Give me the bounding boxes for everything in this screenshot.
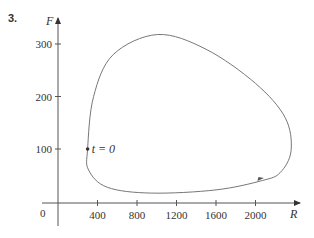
axes [42, 18, 300, 226]
y-tick-label: 200 [36, 91, 53, 103]
problem-number: 3. [8, 12, 17, 24]
x-tick-label: 1200 [166, 209, 189, 221]
x-tick-label: 400 [89, 209, 106, 221]
start-point-dot [86, 147, 90, 151]
phase-plot: 3. 400800120016002000100200300 t = 0 R F… [0, 0, 314, 238]
start-label: t = 0 [92, 142, 115, 156]
origin-label: 0 [40, 207, 46, 219]
x-tick-label: 1600 [205, 209, 228, 221]
x-tick-label: 2000 [245, 209, 268, 221]
annotations: t = 0 [86, 142, 264, 181]
y-tick-label: 100 [36, 143, 53, 155]
x-axis-label: R [289, 207, 298, 221]
y-axis-label: F [45, 14, 54, 28]
x-tick-label: 800 [129, 209, 146, 221]
y-tick-label: 300 [36, 38, 53, 50]
trajectory-curve [87, 34, 292, 193]
